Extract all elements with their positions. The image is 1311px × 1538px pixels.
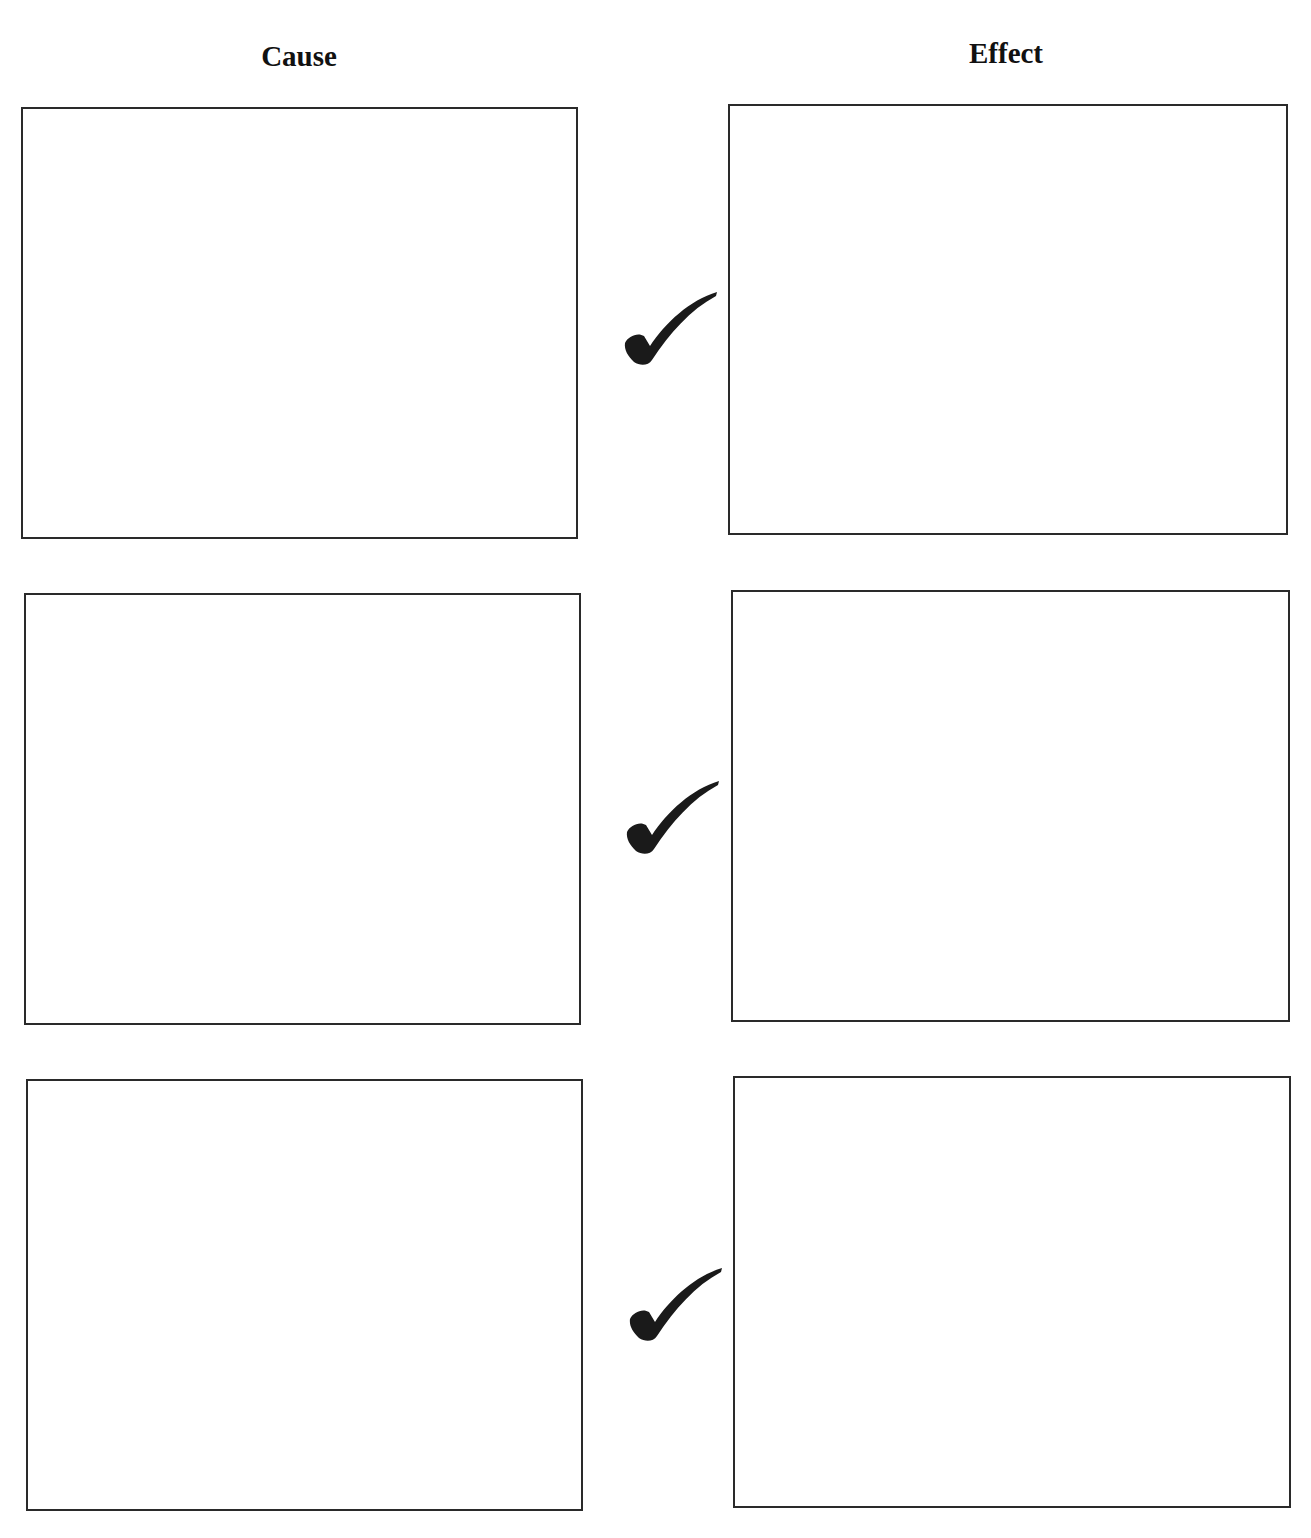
checkmark-icon [625,1264,725,1344]
checkmark-icon [622,777,722,857]
cause-box-3[interactable] [26,1079,583,1511]
effect-box-2[interactable] [731,590,1290,1022]
cause-box-1[interactable] [21,107,578,539]
effect-heading: Effect [856,37,1156,70]
cause-heading: Cause [149,40,449,73]
effect-box-3[interactable] [733,1076,1291,1508]
effect-box-1[interactable] [728,104,1288,535]
checkmark-icon [620,288,720,368]
cause-box-2[interactable] [24,593,581,1025]
